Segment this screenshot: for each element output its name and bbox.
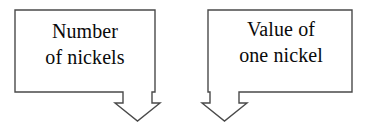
diagram-canvas: Number of nickels Value of one nickel [0, 0, 368, 125]
node-label-value-of-one-nickel: Value of one nickel [210, 16, 352, 68]
node-label-line: of nickels [16, 44, 154, 70]
node-label-line: Value of [210, 16, 352, 42]
node-label-line: one nickel [210, 42, 352, 68]
node-label-number-of-nickels: Number of nickels [16, 18, 154, 70]
node-label-line: Number [16, 18, 154, 44]
